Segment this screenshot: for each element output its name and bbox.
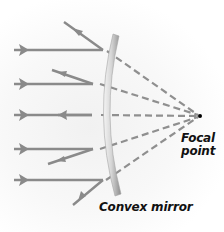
arrow-left-icon (56, 156, 66, 162)
reflected-ray-4 (48, 149, 93, 164)
convex-mirror-diagram: Focal point Convex mirror (0, 0, 224, 232)
virtual-ray-2 (100, 84, 198, 115)
arrow-left-icon (57, 71, 67, 77)
arrow-down-left-icon (78, 191, 86, 201)
focal-point-dot (198, 114, 202, 118)
convex-mirror-label: Convex mirror (99, 201, 193, 214)
arrow-left-icon (58, 110, 67, 120)
virtual-ray-1 (107, 51, 198, 115)
virtual-ray-3 (101, 115, 197, 116)
focal-label-line2: point (181, 145, 215, 158)
focal-point-label: Focal point (181, 132, 215, 158)
reflected-ray-1 (64, 22, 103, 50)
diagram-canvas (0, 0, 224, 232)
virtual-rays (100, 51, 198, 180)
